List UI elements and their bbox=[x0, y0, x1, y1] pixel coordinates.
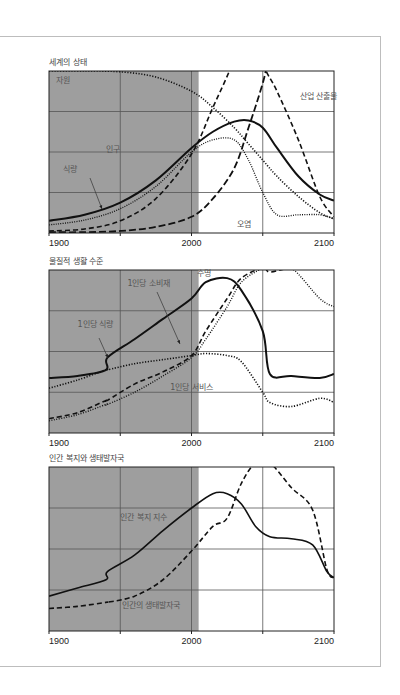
series-annotation: 인구 bbox=[106, 144, 120, 154]
x-tick-label: 1900 bbox=[49, 636, 69, 646]
series-annotation: 1인당 식량 bbox=[78, 319, 115, 329]
series-annotation: 인간 복지 지수 bbox=[120, 512, 167, 522]
x-tick-label: 1900 bbox=[49, 238, 69, 248]
chart-living: 190020002100수명1인당 소비재1인당 식량1인당 서비스 bbox=[49, 266, 334, 448]
series-annotation: 오염 bbox=[237, 220, 251, 229]
series-annotation: 1인당 소비재 bbox=[127, 278, 170, 288]
series-annotation: 1인당 서비스 bbox=[170, 382, 213, 392]
x-tick-label: 2100 bbox=[314, 636, 334, 646]
series-annotation: 산업 산출물 bbox=[300, 91, 338, 101]
chart-welfare: 190020002100인간 복지 지수인간의 생태발자국 bbox=[49, 460, 334, 646]
chart-state: 190020002100자원인구식량산업 산출물오염 bbox=[49, 10, 337, 248]
x-tick-label: 2000 bbox=[181, 438, 201, 448]
x-tick-label: 2100 bbox=[314, 238, 334, 248]
x-tick-label: 2100 bbox=[314, 438, 334, 448]
series-annotation: 수명 bbox=[197, 268, 211, 278]
series-annotation: 인간의 생태발자국 bbox=[122, 600, 181, 610]
series-annotation: 식량 bbox=[63, 164, 78, 174]
charts-canvas: 190020002100자원인구식량산업 산출물오염190020002100수명… bbox=[0, 0, 400, 695]
series-annotation: 자원 bbox=[56, 76, 70, 85]
x-tick-label: 2000 bbox=[181, 238, 201, 248]
x-tick-label: 2000 bbox=[181, 636, 201, 646]
x-tick-label: 1900 bbox=[49, 438, 69, 448]
